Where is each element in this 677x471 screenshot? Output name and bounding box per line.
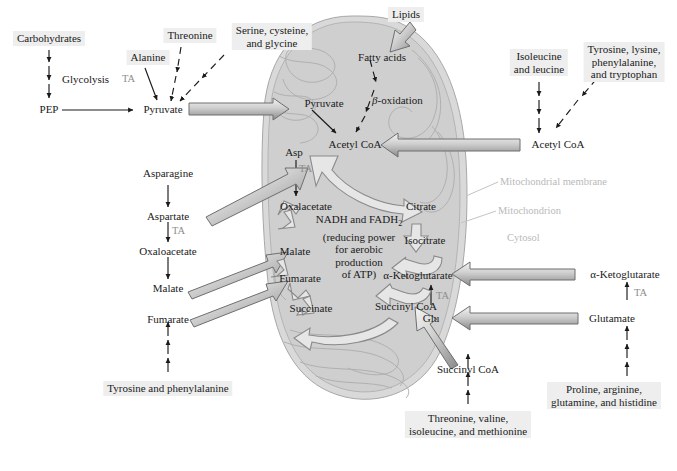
threonine-group-line2: isoleucine, and methionine bbox=[409, 425, 527, 437]
label-oxalacetate-matrix: Oxalacetate bbox=[280, 200, 332, 213]
label-succinyl-coa-matrix: Succinyl CoA bbox=[375, 300, 437, 313]
label-ta-asp: TA bbox=[299, 163, 312, 176]
tyrosine-line3: and tryptophan bbox=[591, 68, 657, 80]
label-fatty-acids: Fatty acids bbox=[358, 51, 406, 64]
annotation-cytosol: Cytosol bbox=[507, 232, 540, 245]
tyrosine-line2: phenylalanine, bbox=[592, 56, 656, 68]
label-ta-aspartate: TA bbox=[172, 225, 185, 238]
diagram-canvas: Carbohydrates Glycolysis PEP Pyruvate Al… bbox=[0, 0, 677, 471]
label-alpha-ketoglutarate-cytosol: α-Ketoglutarate bbox=[590, 268, 659, 281]
label-malate-cytosol: Malate bbox=[153, 282, 184, 295]
label-ta-alanine: TA bbox=[122, 73, 135, 86]
label-lipids: Lipids bbox=[388, 7, 424, 22]
oxidation-text: -oxidation bbox=[377, 94, 422, 106]
label-glu: Glu bbox=[423, 312, 440, 325]
label-serine-cysteine-glycine: Serine, cysteine, and glycine bbox=[232, 23, 312, 50]
label-ta-glu: TA bbox=[436, 290, 449, 303]
reducing-power-line3: for aerobic bbox=[335, 243, 383, 255]
label-oxaloacetate-cytosol: Oxaloacetate bbox=[139, 245, 196, 258]
reducing-power-line2: (reducing power bbox=[323, 231, 395, 243]
proline-line2: glutamine, and histidine bbox=[551, 396, 657, 408]
nadh-fadh-text: NADH and FADH bbox=[316, 213, 398, 225]
label-pep: PEP bbox=[40, 103, 59, 116]
label-acetyl-coa-cytosol: Acetyl CoA bbox=[532, 138, 585, 151]
reducing-power-line5: of ATP) bbox=[342, 268, 377, 280]
label-glutamate: Glutamate bbox=[589, 312, 635, 325]
tyrosine-line1: Tyrosine, lysine, bbox=[588, 43, 661, 55]
proline-line1: Proline, arginine, bbox=[566, 383, 642, 395]
annotation-mitochondrial-membrane: Mitochondrial membrane bbox=[500, 176, 607, 189]
label-beta-oxidation: β-oxidation bbox=[372, 94, 423, 107]
label-succinyl-coa-cytosol: Succinyl CoA bbox=[437, 363, 499, 376]
fadh2-subscript: 2 bbox=[398, 219, 402, 228]
isoleucine-line1: Isoleucine bbox=[516, 50, 561, 62]
label-reducing-power-block: NADH and FADH2 (reducing power for aerob… bbox=[303, 213, 415, 281]
label-citrate: Citrate bbox=[406, 200, 436, 213]
label-pyruvate-cytosol: Pyruvate bbox=[143, 103, 182, 116]
label-tyrosine-phenylalanine: Tyrosine and phenylalanine bbox=[103, 381, 232, 396]
label-isoleucine-leucine: Isoleucine and leucine bbox=[510, 49, 568, 76]
label-asparagine: Asparagine bbox=[143, 167, 193, 180]
label-ta-glutamate: TA bbox=[634, 287, 647, 300]
threonine-group-line1: Threonine, valine, bbox=[428, 412, 508, 424]
label-tyrosine-lysine-group: Tyrosine, lysine, phenylalanine, and try… bbox=[584, 42, 665, 82]
label-asp: Asp bbox=[285, 146, 303, 159]
label-fumarate-cytosol: Fumarate bbox=[147, 313, 189, 326]
isoleucine-line2: and leucine bbox=[514, 63, 564, 75]
reducing-power-line4: production bbox=[335, 256, 383, 268]
annotation-mitochondrion: Mitochondrion bbox=[498, 205, 561, 218]
label-pyruvate-matrix: Pyruvate bbox=[304, 97, 343, 110]
label-alanine: Alanine bbox=[127, 50, 170, 65]
label-aspartate: Aspartate bbox=[147, 210, 189, 223]
label-acetyl-coa-matrix: Acetyl CoA bbox=[329, 138, 382, 151]
label-glycolysis: Glycolysis bbox=[62, 73, 109, 86]
serine-line2: and glycine bbox=[246, 37, 297, 49]
label-proline-arginine-group: Proline, arginine, glutamine, and histid… bbox=[547, 382, 661, 409]
label-threonine-valine-group: Threonine, valine, isoleucine, and methi… bbox=[405, 411, 531, 438]
label-threonine-top: Threonine bbox=[163, 28, 216, 43]
serine-line1: Serine, cysteine, bbox=[236, 24, 308, 36]
label-succinate: Succinate bbox=[290, 302, 333, 315]
label-carbohydrates: Carbohydrates bbox=[13, 31, 85, 46]
